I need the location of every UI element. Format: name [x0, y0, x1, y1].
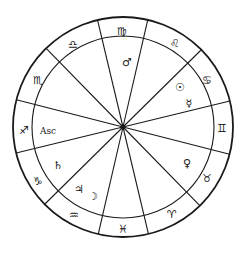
house-cusp-line — [123, 50, 201, 127]
astrology-chart: ♍︎♌︎♋︎♊︎♉︎♈︎♓︎♒︎♑︎♐︎♏︎♎︎ ♂︎☉︎☿︎♀︎♄︎♃︎☽︎ … — [0, 0, 244, 256]
planet-mars-icon: ♂︎ — [122, 56, 132, 69]
sign-sagittarius-icon: ♐︎ — [19, 124, 29, 137]
sign-cancer-icon: ♋︎ — [202, 74, 212, 87]
sign-libra-icon: ♎︎ — [68, 38, 78, 51]
ascendant-label: Asc — [39, 126, 56, 136]
sign-pisces-icon: ♓︎ — [118, 223, 128, 236]
planet-saturn-icon: ♄︎ — [53, 159, 63, 172]
sign-leo-icon: ♌︎ — [170, 37, 180, 50]
house-cusp-line — [46, 48, 123, 127]
sign-taurus-icon: ♉︎ — [202, 172, 212, 185]
ascendant-marker: Asc — [39, 126, 56, 136]
center-hub — [121, 125, 126, 130]
planet-moon-icon: ☽︎ — [88, 190, 98, 203]
planet-venus-icon: ♀︎ — [183, 157, 191, 170]
planet-sun-icon: ☉︎ — [175, 81, 185, 94]
sign-gemini-icon: ♊︎ — [217, 122, 227, 135]
sign-capricorn-icon: ♑︎ — [33, 175, 43, 188]
sign-scorpio-icon: ♏︎ — [33, 74, 43, 87]
sign-aquarius-icon: ♒︎ — [69, 209, 79, 222]
planet-jupiter-icon: ♃︎ — [74, 183, 84, 196]
sign-virgo-icon: ♍︎ — [117, 25, 127, 38]
planet-mercury-icon: ☿︎ — [186, 97, 193, 110]
sign-aries-icon: ♈︎ — [167, 208, 177, 221]
